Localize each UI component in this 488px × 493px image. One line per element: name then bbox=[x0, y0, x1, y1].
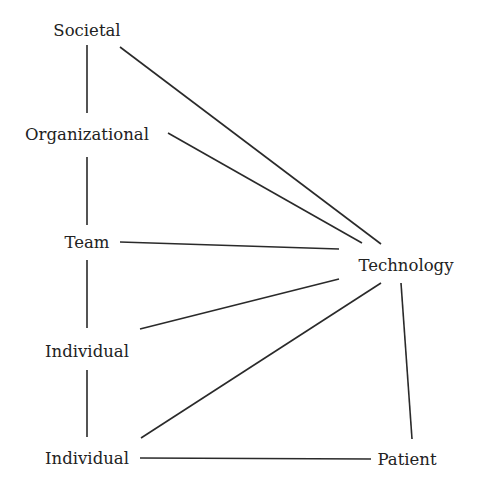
node-technology: Technology bbox=[358, 258, 453, 275]
edge-individual_2-patient bbox=[140, 458, 371, 459]
edge-individual_2-technology bbox=[141, 283, 381, 438]
edge-individual_1-technology bbox=[140, 279, 339, 329]
node-societal: Societal bbox=[53, 23, 120, 40]
sociotechnical-diagram: Societal Organizational Team Individual … bbox=[0, 0, 488, 493]
edge-societal-technology bbox=[120, 47, 381, 244]
edge-team-technology bbox=[120, 242, 339, 249]
node-individual-1: Individual bbox=[45, 344, 129, 361]
node-individual-2: Individual bbox=[45, 451, 129, 468]
node-organizational: Organizational bbox=[25, 127, 149, 144]
edge-technology-patient bbox=[401, 283, 412, 439]
node-patient: Patient bbox=[377, 452, 436, 469]
edge-organizational-technology bbox=[168, 133, 362, 243]
node-team: Team bbox=[65, 235, 110, 252]
